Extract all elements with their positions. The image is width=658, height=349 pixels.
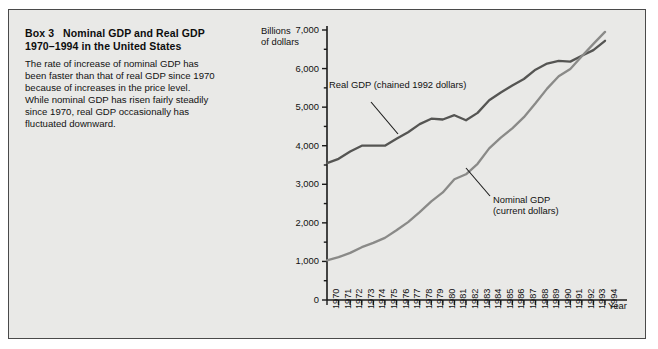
box-body-line: The rate of increase of nominal GDP has [25, 58, 273, 70]
y-tick-label: 5,000 [279, 101, 319, 112]
y-tick-label: 3,000 [279, 178, 319, 189]
x-tick-label: 1975 [389, 289, 399, 309]
x-tick-label: 1994 [609, 289, 619, 309]
leader-line-real-gdp [371, 102, 398, 134]
y-tick-label: 2,000 [279, 217, 319, 228]
x-tick-label: 1976 [401, 289, 411, 309]
y-tick-label: 7,000 [279, 24, 319, 35]
x-tick-label: 1977 [412, 289, 422, 309]
y-tick-label: 4,000 [279, 140, 319, 151]
x-tick-label: 1985 [505, 289, 515, 309]
gdp-line-chart: Billions of dollars Year Real GDP (chain… [261, 16, 647, 336]
x-tick-label: 1993 [597, 289, 607, 309]
box-body: The rate of increase of nominal GDP has … [25, 58, 273, 131]
box-body-line: fluctuated downward. [25, 118, 273, 130]
box-heading: Box 3Nominal GDP and Real GDP 1970–1994 … [25, 27, 273, 53]
x-tick-label: 1991 [574, 289, 584, 309]
y-tick-label: 0 [279, 294, 319, 305]
x-tick-label: 1992 [586, 289, 596, 309]
x-tick-label: 1984 [493, 289, 503, 309]
y-tick-label: 1,000 [279, 255, 319, 266]
x-tick-label: 1973 [366, 289, 376, 309]
x-tick-label: 1981 [458, 289, 468, 309]
box-title-line1: Nominal GDP and Real GDP [63, 27, 205, 39]
x-tick-label: 1980 [447, 289, 457, 309]
x-tick-label: 1982 [470, 289, 480, 309]
box-body-line: because of increases in the price level. [25, 82, 273, 94]
y-tick-label: 6,000 [279, 63, 319, 74]
box-body-line: While nominal GDP has risen fairly stead… [25, 94, 273, 106]
x-tick-label: 1988 [540, 289, 550, 309]
x-tick-label: 1983 [482, 289, 492, 309]
x-tick-label: 1978 [424, 289, 434, 309]
x-tick-label: 1970 [331, 289, 341, 309]
series-line-real-gdp [327, 41, 605, 163]
x-tick-label: 1971 [343, 289, 353, 309]
box-number: Box 3 [25, 27, 54, 39]
x-tick-label: 1972 [354, 289, 364, 309]
x-tick-label: 1979 [435, 289, 445, 309]
box-body-line: been faster than that of real GDP since … [25, 70, 273, 82]
x-tick-label: 1987 [528, 289, 538, 309]
box-body-line: since 1970, real GDP occasionally has [25, 106, 273, 118]
x-tick-label: 1990 [563, 289, 573, 309]
box-frame: Box 3Nominal GDP and Real GDP 1970–1994 … [8, 9, 646, 339]
x-tick-label: 1974 [377, 289, 387, 309]
box-text-panel: Box 3Nominal GDP and Real GDP 1970–1994 … [25, 27, 273, 131]
x-tick-label: 1986 [516, 289, 526, 309]
box-title-line2: 1970–1994 in the United States [25, 40, 182, 52]
leader-line-nominal-gdp [466, 168, 490, 196]
x-tick-label: 1989 [551, 289, 561, 309]
